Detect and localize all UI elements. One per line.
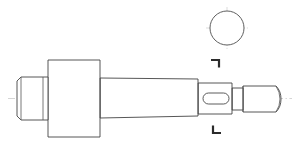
section-end-view [210, 11, 244, 45]
tapered-main-body [100, 78, 198, 118]
drawing-svg [0, 0, 300, 150]
section-view-circle [210, 11, 244, 45]
section-mark-lower [213, 126, 221, 134]
domed-right-tip [243, 86, 281, 112]
engineering-drawing-canvas [0, 0, 300, 150]
front-elevation-view [17, 60, 281, 137]
section-mark-upper [211, 60, 219, 68]
shoulder-step [232, 88, 243, 110]
flange-block [48, 60, 100, 137]
keyway-slot [203, 93, 229, 104]
